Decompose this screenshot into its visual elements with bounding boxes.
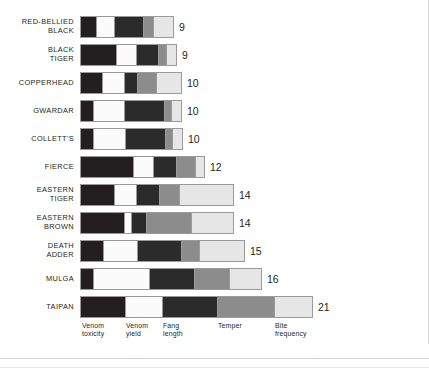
bar-segment-venom-toxicity [81, 213, 124, 233]
stacked-bar[interactable] [80, 16, 174, 38]
bar-segment-bite-frequency [195, 157, 204, 177]
bar-segment-fang-length [125, 129, 165, 149]
chart-row: TAIPAN21 [0, 296, 429, 318]
bar-segment-bite-frequency [229, 269, 261, 289]
bar-segment-temper [181, 241, 199, 261]
chart-row: COLLETT'S10 [0, 128, 429, 150]
bar-segment-venom-yield [96, 17, 114, 37]
bar-segment-bite-frequency [172, 129, 182, 149]
bar-segment-venom-yield [133, 157, 153, 177]
bar-segment-venom-toxicity [81, 129, 93, 149]
bar-segment-bite-frequency [199, 241, 244, 261]
bar-segment-venom-toxicity [81, 17, 96, 37]
row-label: COLLETT'S [0, 135, 74, 144]
stacked-bar[interactable] [80, 72, 182, 94]
bar-segment-venom-yield [114, 185, 136, 205]
bar-segment-fang-length [153, 157, 176, 177]
bar-segment-temper [164, 101, 171, 121]
stacked-bar[interactable] [80, 100, 182, 122]
bar-segment-venom-toxicity [81, 185, 114, 205]
bar-segment-fang-length [114, 17, 143, 37]
row-total-value: 10 [187, 105, 199, 117]
row-label: TAIPAN [0, 303, 74, 312]
bar-segment-fang-length [162, 297, 217, 317]
row-label: EASTERN TIGER [0, 186, 74, 203]
bar-segment-venom-yield [93, 129, 125, 149]
row-label: RED-BELLIED BLACK [0, 18, 74, 35]
legend-item-venom-yield: Venom yield [126, 322, 148, 339]
stacked-bar[interactable] [80, 128, 183, 150]
row-label: GWARDAR [0, 107, 74, 116]
chart-row: BLACK TIGER9 [0, 44, 429, 66]
bar-segment-temper [146, 213, 191, 233]
bar-segment-venom-yield [125, 297, 162, 317]
bar-segment-venom-toxicity [81, 45, 116, 65]
row-label: DEATH ADDER [0, 242, 74, 259]
bar-segment-temper [165, 129, 172, 149]
stacked-bar[interactable] [80, 212, 234, 234]
bar-segment-fang-length [131, 213, 146, 233]
legend-item-venom-toxicity: Venom toxicity [82, 322, 104, 339]
bar-segment-bite-frequency [156, 73, 181, 93]
row-label: BLACK TIGER [0, 46, 74, 63]
bar-segment-temper [158, 45, 166, 65]
row-total-value: 12 [210, 161, 222, 173]
bar-segment-venom-yield [93, 269, 149, 289]
bar-segment-venom-toxicity [81, 73, 102, 93]
chart-row: COPPERHEAD10 [0, 72, 429, 94]
row-total-value: 15 [250, 245, 262, 257]
bar-segment-venom-toxicity [81, 101, 93, 121]
chart-row: FIERCE12 [0, 156, 429, 178]
bar-segment-venom-yield [124, 213, 131, 233]
stacked-bar[interactable] [80, 240, 245, 262]
row-total-value: 16 [267, 273, 279, 285]
row-total-value: 14 [239, 217, 251, 229]
stacked-bar[interactable] [80, 184, 234, 206]
row-label: MULGA [0, 275, 74, 284]
stacked-bar[interactable] [80, 296, 313, 318]
bar-segment-venom-yield [116, 45, 136, 65]
chart-row: GWARDAR10 [0, 100, 429, 122]
bar-segment-venom-toxicity [81, 269, 93, 289]
bar-segment-bite-frequency [166, 45, 176, 65]
chart-row: EASTERN BROWN14 [0, 212, 429, 234]
bar-segment-temper [217, 297, 274, 317]
chart-row: RED-BELLIED BLACK9 [0, 16, 429, 38]
bar-segment-fang-length [149, 269, 194, 289]
chart-row: EASTERN TIGER14 [0, 184, 429, 206]
bar-segment-venom-toxicity [81, 297, 125, 317]
bar-segment-fang-length [137, 241, 181, 261]
bar-segment-bite-frequency [191, 213, 233, 233]
chart-page: RED-BELLIED BLACK9BLACK TIGER9COPPERHEAD… [0, 0, 429, 368]
legend-item-fang-length: Fang length [163, 322, 183, 339]
bar-segment-bite-frequency [179, 185, 233, 205]
row-total-value: 21 [318, 301, 330, 313]
bar-segment-temper [137, 73, 156, 93]
bar-segment-temper [194, 269, 229, 289]
chart-row: DEATH ADDER15 [0, 240, 429, 262]
stacked-bar[interactable] [80, 268, 262, 290]
legend-item-temper: Temper [218, 322, 242, 330]
bar-segment-temper [176, 157, 195, 177]
row-label: EASTERN BROWN [0, 214, 74, 231]
bar-segment-bite-frequency [274, 297, 312, 317]
bar-segment-fang-length [124, 101, 164, 121]
stacked-bar[interactable] [80, 44, 177, 66]
row-total-value: 14 [239, 189, 251, 201]
bar-segment-venom-yield [93, 101, 124, 121]
bar-segment-fang-length [124, 73, 137, 93]
bar-segment-temper [143, 17, 153, 37]
row-total-value: 9 [182, 49, 188, 61]
stacked-bar[interactable] [80, 156, 205, 178]
stacked-bar-chart: RED-BELLIED BLACK9BLACK TIGER9COPPERHEAD… [0, 0, 429, 368]
bar-segment-venom-yield [102, 73, 124, 93]
bar-segment-fang-length [136, 185, 159, 205]
row-total-value: 10 [188, 133, 200, 145]
bar-segment-venom-toxicity [81, 241, 103, 261]
bar-segment-bite-frequency [171, 101, 181, 121]
row-label: FIERCE [0, 163, 74, 172]
chart-legend: Venom toxicityVenom yieldFang lengthTemp… [80, 322, 320, 352]
bar-segment-venom-yield [103, 241, 137, 261]
row-label: COPPERHEAD [0, 79, 74, 88]
bar-segment-fang-length [136, 45, 158, 65]
